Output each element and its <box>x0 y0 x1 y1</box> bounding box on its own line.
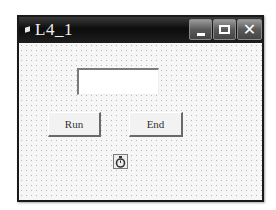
maximize-icon <box>219 25 230 34</box>
timer-control[interactable] <box>113 154 128 169</box>
form-design-surface: Run End <box>19 43 262 200</box>
minimize-icon <box>197 33 205 36</box>
run-button[interactable]: Run <box>48 112 101 137</box>
stopwatch-icon <box>115 156 126 168</box>
title-bar[interactable]: L4_1 ✕ <box>19 17 262 43</box>
form-window: L4_1 ✕ Run End <box>17 15 264 202</box>
text-box[interactable] <box>77 68 159 95</box>
end-button[interactable]: End <box>129 112 183 137</box>
close-button[interactable]: ✕ <box>237 19 262 40</box>
minimize-button[interactable] <box>189 19 212 40</box>
close-icon: ✕ <box>243 22 256 38</box>
app-icon <box>25 26 30 32</box>
window-title: L4_1 <box>35 20 73 40</box>
maximize-button[interactable] <box>213 19 236 40</box>
